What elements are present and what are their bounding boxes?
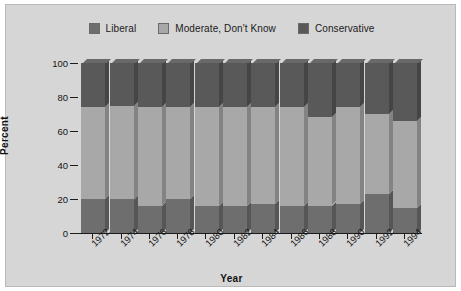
bar-segment-moderate	[223, 107, 247, 206]
bar-top-face	[253, 59, 281, 63]
y-tick-label: 80	[40, 92, 68, 103]
bar-segment-conservative	[393, 63, 417, 121]
bar-group	[138, 63, 162, 233]
bar-top-face	[310, 59, 338, 63]
y-axis-title: Percent	[0, 116, 10, 155]
legend-entry-moderate: Moderate, Don't Know	[158, 23, 276, 34]
bar-segment-moderate	[308, 117, 332, 205]
bar-segment-moderate	[110, 106, 134, 200]
bar-segment-conservative	[251, 63, 275, 107]
x-axis-title: Year	[6, 273, 457, 284]
bar-group	[110, 63, 134, 233]
bar-segment-moderate	[138, 107, 162, 206]
y-tick-mark	[70, 97, 78, 98]
bar-top-face	[367, 59, 395, 63]
y-axis-tick-labels: 020406080100	[36, 5, 68, 291]
bar-top-face	[197, 59, 225, 63]
y-tick-mark	[70, 131, 78, 132]
chart-figure: Liberal Moderate, Don't Know Conservativ…	[5, 4, 456, 287]
bar-segment-conservative	[280, 63, 304, 107]
bar-top-face	[83, 59, 111, 63]
bar-segment-moderate	[195, 107, 219, 206]
bar-segment-moderate	[166, 107, 190, 199]
bar-segment-side	[417, 117, 421, 208]
bar-group	[166, 63, 190, 233]
bar-segment-moderate	[81, 107, 105, 199]
bar-top-face	[225, 59, 253, 63]
legend-entry-conservative: Conservative	[298, 23, 375, 34]
bar-segment-conservative	[336, 63, 360, 107]
bar-group	[336, 63, 360, 233]
legend-entry-liberal: Liberal	[89, 23, 137, 34]
bar-group	[365, 63, 389, 233]
bar-top-face	[395, 59, 423, 63]
bar-top-face	[338, 59, 366, 63]
bar-top-face	[168, 59, 196, 63]
y-tick-label: 20	[40, 194, 68, 205]
bar-segment-conservative	[195, 63, 219, 107]
bar-segment-conservative	[138, 63, 162, 107]
y-tick-label: 40	[40, 160, 68, 171]
bar-group	[280, 63, 304, 233]
bar-segment-moderate	[280, 107, 304, 206]
bar-top-face	[140, 59, 168, 63]
bar-group	[81, 63, 105, 233]
bar-top-face	[112, 59, 140, 63]
chart-legend: Liberal Moderate, Don't Know Conservativ…	[6, 23, 457, 34]
y-tick-mark	[70, 165, 78, 166]
bar-segment-conservative	[308, 63, 332, 117]
y-tick-mark	[70, 63, 78, 64]
bar-segment-moderate	[251, 107, 275, 204]
legend-swatch-liberal	[89, 23, 100, 34]
bar-segment-conservative	[223, 63, 247, 107]
bar-segment-conservative	[81, 63, 105, 107]
bar-segment-moderate	[365, 114, 389, 194]
y-tick-label: 0	[40, 228, 68, 239]
legend-swatch-moderate	[158, 23, 169, 34]
bar-group	[223, 63, 247, 233]
bar-group	[308, 63, 332, 233]
bar-segment-conservative	[365, 63, 389, 114]
bar-segment-conservative	[166, 63, 190, 107]
plot-area	[78, 63, 422, 233]
bar-group	[195, 63, 219, 233]
legend-label-moderate: Moderate, Don't Know	[175, 23, 276, 34]
bar-segment-moderate	[393, 121, 417, 208]
bar-group	[251, 63, 275, 233]
legend-label-liberal: Liberal	[106, 23, 137, 34]
legend-swatch-conservative	[298, 23, 309, 34]
bar-top-face	[282, 59, 310, 63]
legend-label-conservative: Conservative	[315, 23, 375, 34]
bar-segment-moderate	[336, 107, 360, 204]
y-tick-label: 60	[40, 126, 68, 137]
y-tick-mark	[70, 233, 78, 234]
bar-segment-conservative	[110, 63, 134, 106]
y-tick-mark	[70, 199, 78, 200]
y-tick-label: 100	[40, 58, 68, 69]
bar-segment-side	[417, 59, 421, 121]
bar-group	[393, 63, 417, 233]
